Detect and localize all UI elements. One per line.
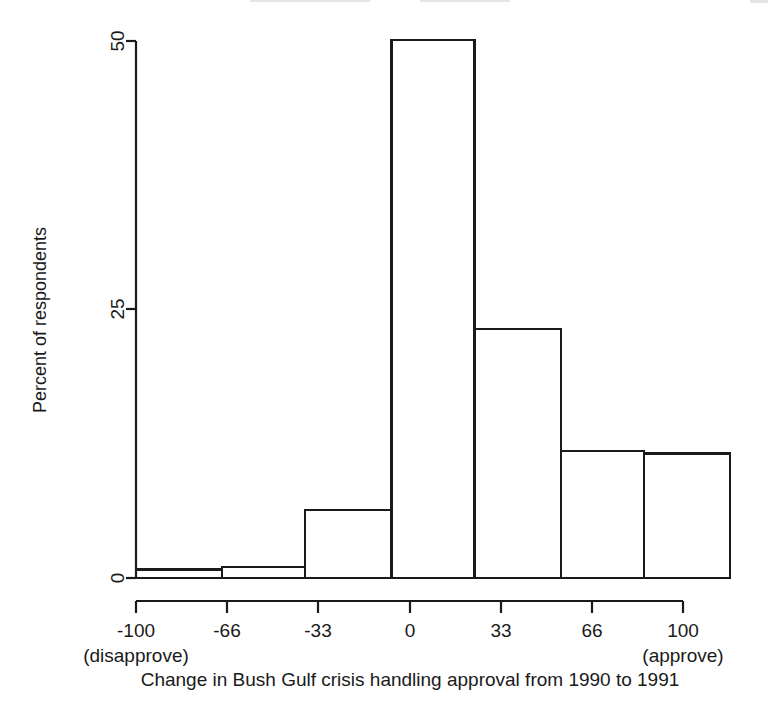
y-tick-label-0: 0 [107,573,128,584]
y-axis [126,41,136,578]
y-axis-title: Percent of respondents [30,227,50,413]
x-axis [136,601,683,613]
x-tick-label-100: 100 [667,620,699,641]
histogram-plot-canvas: 50 25 0 Percent of respondents [0,0,771,724]
x-tick-label-neg33: -33 [304,620,331,641]
y-tick-label-text: 0 [107,573,128,584]
x-tick-label-33: 33 [490,620,511,641]
x-axis-right-anchor-label: (approve) [642,645,723,666]
y-tick-label-25: 25 [107,298,128,319]
bar-bin-7 [644,453,730,578]
bar-bin-4 [391,40,474,578]
y-tick-label-50: 50 [107,30,128,51]
histogram-bars [136,40,730,578]
bar-bin-5 [475,329,561,578]
x-axis-left-anchor-label: (disapprove) [83,645,189,666]
x-tick-label-0: 0 [405,620,416,641]
x-axis-title: Change in Bush Gulf crisis handling appr… [141,669,680,690]
x-tick-label-66: 66 [581,620,602,641]
bar-bin-6 [561,451,644,578]
x-tick-label-neg66: -66 [213,620,240,641]
y-tick-label-text: 25 [107,298,128,319]
bar-bin-3 [305,510,391,578]
y-tick-label-text: 50 [107,30,128,51]
scan-artifact-top [250,0,768,3]
bar-bin-2 [222,567,305,578]
histogram-figure: 50 25 0 Percent of respondents [0,0,771,724]
x-tick-label-neg100: -100 [117,620,155,641]
bar-bin-1 [136,569,222,578]
